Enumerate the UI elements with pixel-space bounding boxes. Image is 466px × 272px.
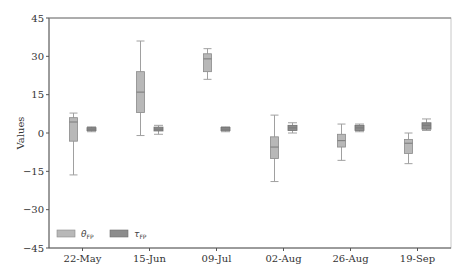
y-axis-label: Values: [15, 117, 26, 151]
box-τ-09-Jul: [221, 127, 230, 132]
box-plot-chart: −45−30−150153045 22-May15-Jun09-Jul02-Au…: [0, 0, 466, 272]
x-tick-label: 15-Jun: [133, 253, 167, 264]
x-tick-label: 02-Aug: [265, 253, 302, 264]
iqr-box: [70, 118, 78, 142]
legend-swatch-1: [57, 230, 75, 237]
box-θ-19-Sep: [405, 133, 413, 164]
x-tick-label: 26-Aug: [332, 253, 369, 264]
x-tick-label: 09-Jul: [202, 253, 232, 264]
box-θ-26-Aug: [338, 124, 346, 160]
iqr-box: [204, 54, 212, 72]
box-θ-09-Jul: [204, 49, 212, 80]
y-tick-label: −15: [23, 166, 44, 177]
legend: θFPτFP: [57, 229, 147, 240]
legend-label-1: θFP: [81, 229, 94, 240]
legend-swatch-2: [110, 230, 128, 237]
box-τ-15-Jun: [154, 125, 163, 134]
plot-border: [49, 18, 451, 248]
box-series: [70, 41, 432, 182]
plot-frame: [49, 18, 451, 248]
y-tick-label: −45: [23, 243, 44, 254]
x-tick-label: 19-Sep: [400, 253, 435, 264]
y-tick-label: −30: [23, 204, 44, 215]
iqr-box: [405, 139, 413, 153]
box-θ-22-May: [70, 113, 78, 175]
y-tick-label: 30: [31, 51, 44, 62]
y-tick-label: 15: [31, 89, 44, 100]
box-τ-02-Aug: [288, 123, 297, 133]
x-tick-label: 22-May: [64, 253, 102, 264]
box-θ-02-Aug: [271, 115, 279, 181]
y-axis: −45−30−150153045: [23, 13, 49, 254]
iqr-box: [422, 123, 431, 129]
iqr-box: [271, 137, 279, 159]
box-τ-26-Aug: [355, 124, 364, 132]
box-θ-15-Jun: [137, 41, 145, 136]
y-tick-label: 45: [31, 13, 44, 24]
y-tick-label: 0: [38, 128, 44, 139]
box-τ-22-May: [87, 127, 96, 132]
box-τ-19-Sep: [422, 119, 431, 131]
x-axis: 22-May15-Jun09-Jul02-Aug26-Aug19-Sep: [64, 248, 436, 264]
legend-label-2: τFP: [134, 229, 147, 240]
